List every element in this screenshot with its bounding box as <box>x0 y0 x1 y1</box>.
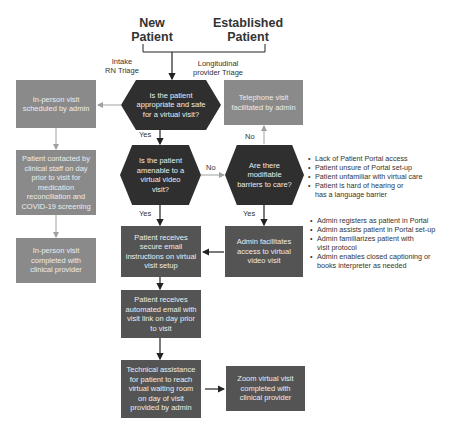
inperson-scheduled-box: In-person visit scheduled by admin <box>16 80 96 128</box>
inperson-completed-box: In-person visit completed with clinical … <box>16 238 96 283</box>
edge-label-yes-amenable: Yes <box>139 209 151 218</box>
admin-action-item: Admin assists patient in Portal set-up <box>310 225 458 234</box>
admin-action-item: Admin familiarizes patient with visit pr… <box>310 234 417 252</box>
patient-contacted-box: Patient contacted by clinical staff on d… <box>16 150 96 215</box>
new-patient-label: New Patient <box>120 16 184 44</box>
longitudinal-triage-label: Longitudinal provider Triage <box>183 59 253 77</box>
edge-label-no-barriers: No <box>245 132 255 141</box>
established-patient-label: Established Patient <box>196 16 300 44</box>
admin-action-list: Admin registers as patient in Portal Adm… <box>310 216 458 270</box>
secure-email-box: Patient receives secure email instructio… <box>121 226 201 277</box>
barrier-item: Patient unsure of Portal set-up <box>308 163 458 172</box>
telephone-visit-box: Telephone visit facilitated by admin <box>224 80 303 125</box>
edge-label-yes-appropriate: Yes <box>139 130 151 139</box>
admin-action-item: Admin enables closed captioning or books… <box>310 252 447 270</box>
edge-label-no-amenable: No <box>206 163 216 172</box>
barrier-item: Patient unfamiliar with virtual care <box>308 172 458 181</box>
automated-email-box: Patient receives automated email with vi… <box>121 290 201 338</box>
decision-appropriate: Is the patient appropriate and safe for … <box>121 80 221 130</box>
intake-triage-label: Intake RN Triage <box>100 57 144 75</box>
decision-amenable: Is the patient amenable to a virtual vid… <box>120 145 201 205</box>
barrier-list: Lack of Patient Portal access Patient un… <box>308 154 458 199</box>
edge-label-yes-barriers: Yes <box>243 209 255 218</box>
admin-action-item: Admin registers as patient in Portal <box>310 216 458 225</box>
technical-assistance-box: Technical assistance for patient to reac… <box>121 360 201 418</box>
decision-barriers: Are there modifiable barriers to care? <box>225 145 304 205</box>
admin-facilitates-box: Admin facilitates access to virtual vide… <box>225 226 303 277</box>
zoom-visit-box: Zoom virtual visit completed with clinic… <box>226 366 305 411</box>
barrier-item: Lack of Patient Portal access <box>308 154 458 163</box>
barrier-item: Patient is hard of hearing or has a lang… <box>308 181 415 199</box>
